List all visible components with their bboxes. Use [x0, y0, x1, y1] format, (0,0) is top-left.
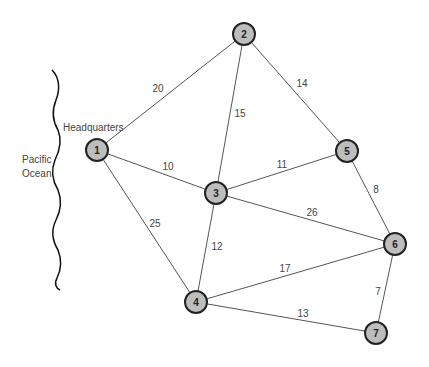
edge-weight-label: 10	[162, 161, 174, 172]
edge-4-7	[196, 302, 376, 333]
coastline-icon	[52, 70, 61, 290]
edge-weight-label: 26	[306, 207, 318, 218]
edge-weight-label: 13	[297, 308, 309, 319]
edge-2-5	[244, 34, 347, 151]
edge-4-6	[196, 244, 395, 302]
node-5: 5	[336, 140, 358, 162]
edge-weight-label: 14	[296, 78, 308, 89]
edge-3-5	[216, 151, 347, 193]
edge-weight-label: 17	[279, 263, 291, 274]
edge-weight-label: 15	[234, 108, 246, 119]
node-label: 1	[94, 145, 100, 156]
node-1: 1	[86, 139, 108, 161]
edge-weight-label: 25	[149, 218, 161, 229]
node-3: 3	[205, 182, 227, 204]
node-4: 4	[185, 291, 207, 313]
node-6: 6	[384, 233, 406, 255]
node-label: 2	[241, 29, 247, 40]
edge-1-3	[97, 150, 216, 193]
ocean-label-line1: Pacific	[22, 154, 51, 165]
node-label: 3	[213, 188, 219, 199]
edge-weight-label: 12	[211, 241, 223, 252]
node-label: 7	[373, 328, 379, 339]
ocean-label-line2: Ocean	[22, 168, 51, 179]
node-7: 7	[365, 322, 387, 344]
edge-weight-label: 20	[152, 83, 164, 94]
edge-weight-label: 11	[277, 159, 288, 170]
edge-1-4	[97, 150, 196, 302]
edge-3-6	[216, 193, 395, 244]
headquarters-label: Headquarters	[63, 122, 124, 133]
node-label: 5	[344, 146, 350, 157]
edge-weight-label: 7	[375, 286, 381, 297]
edge-5-6	[347, 151, 395, 244]
node-2: 2	[233, 23, 255, 45]
node-label: 6	[392, 239, 398, 250]
edge-weight-label: 8	[373, 184, 379, 195]
network-diagram: 2010251514111226817137 1234567 Pacific O…	[0, 0, 429, 367]
node-label: 4	[193, 297, 199, 308]
